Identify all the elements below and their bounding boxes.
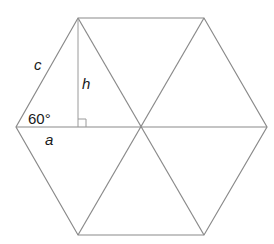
side-label-c: c xyxy=(34,56,42,73)
base-label-a: a xyxy=(45,131,53,148)
right-angle-marker xyxy=(78,119,86,127)
height-label-h: h xyxy=(82,75,90,92)
angle-label-60: 60° xyxy=(28,110,51,127)
hexagon-diagram: c h 60° a xyxy=(0,0,274,244)
